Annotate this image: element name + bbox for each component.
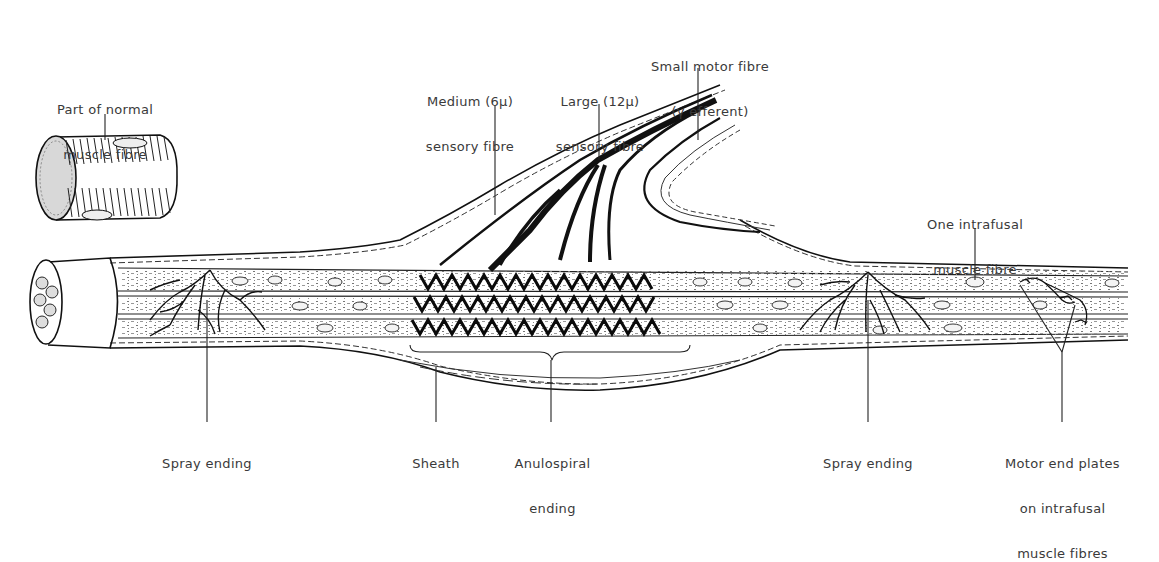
label-line: sensory fibre — [545, 139, 655, 154]
label-line: sensory fibre — [410, 139, 530, 154]
label-motor-end-plates: Motor end plates on intrafusal muscle fi… — [995, 426, 1130, 562]
label-spray-ending-left: Spray ending — [147, 426, 267, 486]
label-line: on intrafusal — [995, 501, 1130, 516]
anulospiral-brace — [410, 345, 690, 360]
label-normal-muscle-fibre: Part of normal muscle fibre — [40, 72, 170, 177]
label-line: muscle fibre — [40, 147, 170, 162]
label-line: Large (12μ) — [545, 94, 655, 109]
label-line: One intrafusal — [915, 217, 1035, 232]
label-line: Anulospiral — [505, 456, 600, 471]
label-line: Sheath — [400, 456, 472, 471]
label-large-sensory-fibre: Large (12μ) sensory fibre — [545, 64, 655, 169]
label-line: muscle fibre — [915, 262, 1035, 277]
label-line: Spray ending — [147, 456, 267, 471]
label-line: Small motor fibre — [640, 59, 780, 74]
label-spray-ending-right: Spray ending — [808, 426, 928, 486]
label-line: Motor end plates — [995, 456, 1130, 471]
label-line: (γ efferent) — [640, 104, 780, 119]
label-line: muscle fibres — [995, 546, 1130, 561]
label-small-motor-fibre: Small motor fibre (γ efferent) — [640, 29, 780, 134]
label-anulospiral-ending: Anulospiral ending — [505, 426, 600, 531]
label-one-intrafusal-fibre: One intrafusal muscle fibre — [915, 187, 1035, 292]
label-line: Part of normal — [40, 102, 170, 117]
label-line: Spray ending — [808, 456, 928, 471]
label-medium-sensory-fibre: Medium (6μ) sensory fibre — [410, 64, 530, 169]
label-line: Medium (6μ) — [410, 94, 530, 109]
label-sheath: Sheath — [400, 426, 472, 486]
label-line: ending — [505, 501, 600, 516]
